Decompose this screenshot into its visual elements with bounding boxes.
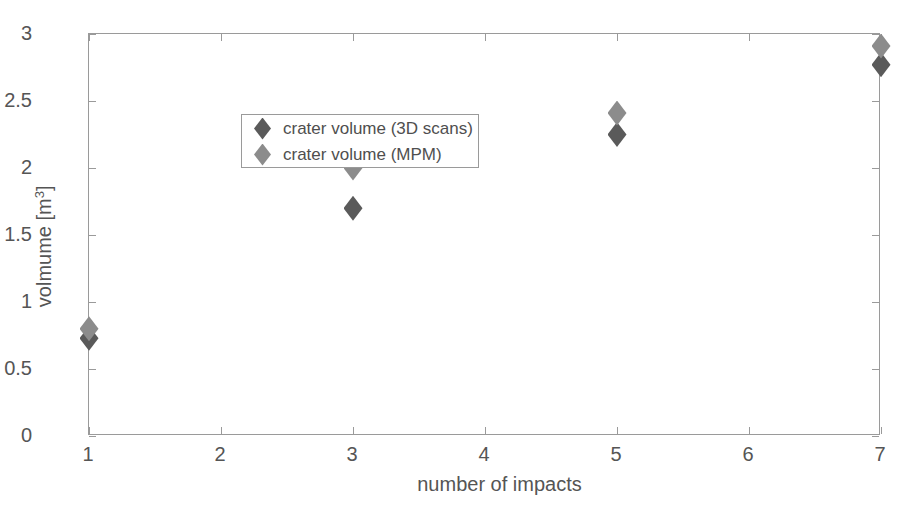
x-tick-label: 7: [850, 443, 910, 466]
y-axis-title-text: volmume [m: [33, 198, 55, 307]
y-tick-mark: [89, 302, 96, 303]
x-tick-label: 2: [190, 443, 250, 466]
legend-marker-diamond-icon: [254, 118, 271, 140]
y-tick-mark: [872, 436, 879, 437]
y-tick-mark: [89, 436, 96, 437]
y-tick-label: 1: [0, 290, 32, 313]
y-tick-mark: [89, 168, 96, 169]
figure-canvas: volmume [m3] 00.511.522.53 1234567 crate…: [0, 0, 921, 520]
x-tick-label: 5: [586, 443, 646, 466]
x-tick-mark: [221, 427, 222, 434]
x-tick-mark: [353, 34, 354, 41]
plot-area: crater volume (3D scans) crater volume (…: [88, 33, 880, 435]
data-point-marker: [608, 101, 627, 126]
y-tick-mark: [872, 369, 879, 370]
y-tick-label: 3: [0, 22, 32, 45]
data-point-marker: [608, 122, 627, 147]
legend-entry: crater volume (3D scans): [242, 115, 478, 142]
y-tick-mark: [89, 34, 96, 35]
y-axis-title-exponent: 3: [32, 191, 47, 198]
y-tick-mark: [872, 235, 879, 236]
y-tick-label: 0: [0, 424, 32, 447]
y-tick-mark: [872, 101, 879, 102]
y-tick-label: 2: [0, 156, 32, 179]
legend: crater volume (3D scans) crater volume (…: [241, 114, 479, 168]
y-tick-mark: [89, 369, 96, 370]
legend-entry-label: crater volume (3D scans): [283, 119, 473, 139]
legend-marker-diamond-icon: [254, 144, 271, 166]
legend-entry-label: crater volume (MPM): [283, 145, 442, 165]
x-tick-mark: [353, 427, 354, 434]
x-tick-mark: [221, 34, 222, 41]
x-tick-label: 3: [322, 443, 382, 466]
legend-entry: crater volume (MPM): [242, 141, 478, 168]
x-tick-mark: [881, 427, 882, 434]
y-tick-mark: [872, 34, 879, 35]
data-point-marker: [344, 196, 363, 221]
y-tick-mark: [872, 302, 879, 303]
x-tick-mark: [485, 427, 486, 434]
x-tick-label: 1: [58, 443, 118, 466]
y-tick-label: 0.5: [0, 357, 32, 380]
x-axis-title: number of impacts: [0, 473, 921, 496]
y-tick-label: 2.5: [0, 89, 32, 112]
y-axis-title: volmume [m3]: [32, 46, 57, 446]
x-tick-mark: [749, 34, 750, 41]
x-tick-mark: [89, 427, 90, 434]
x-tick-mark: [89, 34, 90, 41]
y-tick-mark: [89, 101, 96, 102]
x-tick-label: 6: [718, 443, 778, 466]
y-tick-mark: [872, 168, 879, 169]
x-tick-mark: [617, 34, 618, 41]
y-tick-label: 1.5: [0, 223, 32, 246]
x-tick-mark: [617, 427, 618, 434]
y-axis-title-tail: ]: [33, 185, 55, 191]
x-tick-mark: [485, 34, 486, 41]
data-point-marker: [872, 34, 891, 59]
x-tick-label: 4: [454, 443, 514, 466]
y-tick-mark: [89, 235, 96, 236]
x-tick-mark: [749, 427, 750, 434]
